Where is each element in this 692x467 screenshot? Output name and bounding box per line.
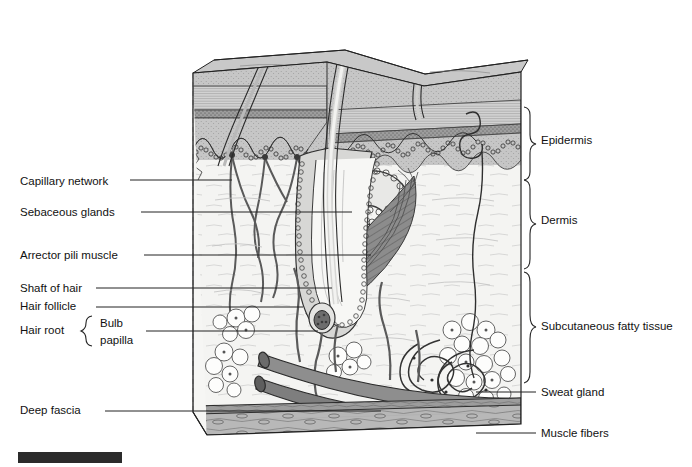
label-muscle-fibers: Muscle fibers	[541, 427, 609, 439]
label-hair-root: Hair root	[20, 324, 65, 336]
skin-block	[193, 2, 528, 435]
epidermis-brace	[524, 107, 536, 180]
dermis-brace	[524, 180, 536, 269]
label-sebaceous-glands: Sebaceous glands	[20, 206, 115, 218]
label-bulb: Bulb	[100, 317, 123, 329]
hair-root-brace	[81, 316, 92, 346]
label-sweat-gland: Sweat gland	[541, 386, 604, 398]
label-deep-fascia: Deep fascia	[20, 404, 81, 416]
subcutaneous-brace	[524, 272, 536, 383]
skin-diagram: Capillary network Sebaceous glands Arrec…	[0, 0, 692, 467]
label-arrector-pili-muscle: Arrector pili muscle	[20, 249, 118, 261]
label-hair-follicle: Hair follicle	[20, 300, 76, 312]
label-papilla: papilla	[100, 334, 134, 346]
label-subcutaneous-fatty-tissue: Subcutaneous fatty tissue	[541, 320, 673, 332]
figure-canvas: Capillary network Sebaceous glands Arrec…	[0, 0, 692, 467]
label-capillary-network: Capillary network	[20, 175, 108, 187]
label-shaft-of-hair: Shaft of hair	[20, 282, 82, 294]
label-epidermis: Epidermis	[541, 134, 592, 146]
scan-artifact-bar	[18, 452, 122, 463]
label-dermis: Dermis	[541, 214, 578, 226]
